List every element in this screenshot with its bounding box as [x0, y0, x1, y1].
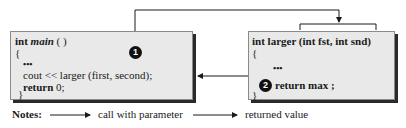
parameter-bracket	[300, 24, 376, 30]
legend-arrows	[0, 108, 406, 122]
legend-call-label: call with parameter	[98, 108, 183, 120]
main-parens: ( )	[54, 35, 67, 47]
step-1-marker: 1	[129, 46, 142, 59]
larger-signature: int larger (int fst, int snd)	[252, 35, 371, 47]
main-return-type: int	[15, 35, 28, 47]
larger-ellipsis: •••	[273, 62, 282, 74]
main-signature: int main ( )	[15, 35, 67, 47]
larger-close-brace: }	[252, 89, 257, 101]
larger-return-line: return max ;	[275, 79, 335, 91]
main-return-value: 0;	[53, 81, 64, 93]
main-close-brace: }	[18, 88, 23, 100]
main-name: main	[31, 35, 54, 47]
main-return-keyword: return	[23, 81, 53, 93]
main-open-brace: {	[15, 47, 20, 59]
larger-open-brace: {	[252, 47, 257, 59]
main-return-line: return 0;	[23, 81, 65, 93]
larger-return-keyword: return	[275, 79, 305, 91]
step-2-marker: 2	[259, 79, 272, 92]
larger-return-value: max ;	[305, 79, 334, 91]
main-call-line: cout << larger (first, second);	[23, 69, 152, 81]
legend-return-label: returned value	[245, 108, 308, 120]
